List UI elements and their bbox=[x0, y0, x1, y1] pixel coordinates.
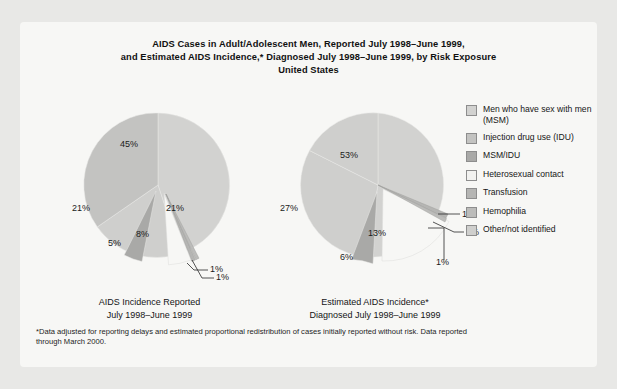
pie-right-label-other-ni: 1% bbox=[436, 257, 449, 267]
chart-title: AIDS Cases in Adult/Adolescent Men, Repo… bbox=[20, 38, 597, 78]
legend-item-other[interactable]: Other/not identified bbox=[466, 224, 592, 236]
pie-chart-reported: 45% 21% 21% 5% 8% 1% 1% bbox=[58, 110, 273, 280]
pie-right-label-other: 27% bbox=[280, 203, 298, 213]
pie-right-label-idu: 13% bbox=[368, 228, 386, 238]
footnote-text: Data adjusted for reporting delays and e… bbox=[36, 327, 467, 346]
legend-label-transfusion: Transfusion bbox=[483, 187, 528, 198]
pie-chart-estimated: 53% 27% 13% 6% 1% 1% 1% bbox=[278, 110, 493, 280]
legend-swatch-icon-other bbox=[466, 225, 477, 236]
chart-card: AIDS Cases in Adult/Adolescent Men, Repo… bbox=[20, 22, 597, 367]
chart-page: AIDS Cases in Adult/Adolescent Men, Repo… bbox=[0, 0, 617, 389]
caption-reported: AIDS Incidence Reported July 1998–June 1… bbox=[42, 296, 257, 321]
caption-estimated: Estimated AIDS Incidence* Diagnosed July… bbox=[260, 296, 490, 321]
legend-label-msm-idu: MSM/IDU bbox=[483, 150, 520, 161]
caption-estimated-line2: Diagnosed July 1998–June 1999 bbox=[260, 309, 490, 322]
pie-left-label-hemophilia: 1% bbox=[216, 272, 229, 282]
pie-left-label-idu: 21% bbox=[166, 203, 184, 213]
legend-item-idu[interactable]: Injection drug use (IDU) bbox=[466, 132, 592, 144]
pie-right-label-msmidu: 6% bbox=[340, 252, 353, 262]
chart-footnote: *Data adjusted for reporting delays and … bbox=[36, 327, 486, 347]
legend-swatch-icon-idu bbox=[466, 133, 477, 144]
title-line-2: and Estimated AIDS Incidence,* Diagnosed… bbox=[20, 51, 597, 64]
legend-item-heterosexual[interactable]: Heterosexual contact bbox=[466, 169, 592, 181]
legend-label-heterosexual: Heterosexual contact bbox=[483, 169, 564, 180]
caption-reported-line1: AIDS Incidence Reported bbox=[42, 296, 257, 309]
legend-swatch-icon-transfusion bbox=[466, 188, 477, 199]
legend-item-hemophilia[interactable]: Hemophilia bbox=[466, 206, 592, 218]
caption-reported-line2: July 1998–June 1999 bbox=[42, 309, 257, 322]
legend-label-msm: Men who have sex with men (MSM) bbox=[483, 104, 592, 125]
legend-label-idu: Injection drug use (IDU) bbox=[483, 132, 574, 143]
pie-left-label-msmidu: 5% bbox=[108, 238, 121, 248]
legend-swatch-icon-msm-idu bbox=[466, 151, 477, 162]
legend-swatch-icon-hemophilia bbox=[466, 207, 477, 218]
chart-legend: Men who have sex with men (MSM) Injectio… bbox=[466, 104, 592, 243]
caption-estimated-line1: Estimated AIDS Incidence* bbox=[260, 296, 490, 309]
legend-item-msm-idu[interactable]: MSM/IDU bbox=[466, 150, 592, 162]
legend-swatch-icon-heterosexual bbox=[466, 170, 477, 181]
title-line-1: AIDS Cases in Adult/Adolescent Men, Repo… bbox=[20, 38, 597, 51]
pie-left-label-hetero: 8% bbox=[136, 229, 149, 239]
pie-right-label-msm: 53% bbox=[340, 150, 358, 160]
legend-item-transfusion[interactable]: Transfusion bbox=[466, 187, 592, 199]
title-line-3: United States bbox=[20, 64, 597, 77]
legend-label-other: Other/not identified bbox=[483, 224, 556, 235]
legend-item-msm[interactable]: Men who have sex with men (MSM) bbox=[466, 104, 592, 125]
legend-label-hemophilia: Hemophilia bbox=[483, 206, 526, 217]
pie-right-svg bbox=[278, 110, 493, 280]
pie-left-label-other: 21% bbox=[72, 203, 90, 213]
pie-left-label-msm: 45% bbox=[120, 139, 138, 149]
pie-left-svg bbox=[58, 110, 273, 280]
legend-swatch-icon-msm bbox=[466, 105, 477, 116]
